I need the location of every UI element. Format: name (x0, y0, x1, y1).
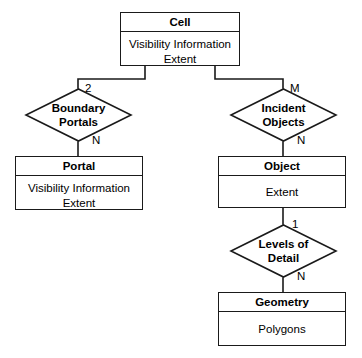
relationship-boundary-portals-label: Boundary Portals (25, 88, 132, 142)
entity-object-attribute-0: Extent (221, 185, 343, 200)
cardinality-levels-of-detail-bottom: N (297, 270, 305, 282)
cardinality-levels-of-detail-top: 1 (292, 218, 298, 230)
entity-cell-attribute-1: Extent (123, 52, 237, 67)
relationship-incident-objects-line1: Incident (261, 101, 305, 116)
entity-portal-attributes: Visibility Information Extent (16, 176, 142, 216)
entity-portal-attribute-1: Extent (18, 196, 140, 211)
entity-object-attributes: Extent (219, 176, 345, 206)
entity-cell-title: Cell (121, 13, 239, 32)
relationship-levels-of-detail[interactable]: Levels of Detail (230, 224, 337, 278)
entity-geometry-attributes: Polygons (219, 312, 345, 343)
entity-portal-attribute-0: Visibility Information (18, 181, 140, 196)
er-diagram: Cell Visibility Information Extent Bound… (0, 0, 362, 358)
relationship-incident-objects-line2: Objects (262, 115, 304, 130)
entity-cell[interactable]: Cell Visibility Information Extent (120, 12, 240, 66)
relationship-levels-of-detail-line2: Detail (268, 251, 299, 266)
relationship-levels-of-detail-label: Levels of Detail (230, 224, 337, 278)
cardinality-boundary-portals-bottom: N (92, 134, 100, 146)
relationship-boundary-portals-line1: Boundary (52, 101, 106, 116)
relationship-incident-objects-label: Incident Objects (230, 88, 337, 142)
cardinality-incident-objects-top: M (290, 82, 300, 94)
entity-geometry[interactable]: Geometry Polygons (218, 292, 346, 346)
entity-geometry-title: Geometry (219, 293, 345, 312)
relationship-boundary-portals-line2: Portals (59, 115, 98, 130)
entity-geometry-attribute-0: Polygons (221, 322, 343, 337)
entity-cell-attributes: Visibility Information Extent (121, 32, 239, 72)
cardinality-incident-objects-bottom: N (297, 134, 305, 146)
entity-portal[interactable]: Portal Visibility Information Extent (15, 156, 143, 210)
entity-portal-title: Portal (16, 157, 142, 176)
entity-object[interactable]: Object Extent (218, 156, 346, 208)
relationship-boundary-portals[interactable]: Boundary Portals (25, 88, 132, 142)
cardinality-boundary-portals-top: 2 (85, 82, 91, 94)
relationship-levels-of-detail-line1: Levels of (259, 237, 309, 252)
entity-object-title: Object (219, 157, 345, 176)
relationship-incident-objects[interactable]: Incident Objects (230, 88, 337, 142)
entity-cell-attribute-0: Visibility Information (123, 37, 237, 52)
